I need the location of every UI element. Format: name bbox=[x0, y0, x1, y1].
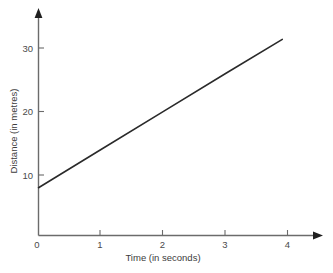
chart-background bbox=[0, 0, 333, 273]
y-tick-label-20: 20 bbox=[22, 106, 33, 117]
x-tick-label-4: 4 bbox=[285, 239, 290, 250]
x-tick-label-0: 0 bbox=[34, 239, 39, 250]
x-tick-label-1: 1 bbox=[97, 239, 102, 250]
x-tick-label-2: 2 bbox=[160, 239, 165, 250]
figure-container: 30 20 10 Distance (in metres) 0 1 2 3 4 … bbox=[0, 0, 333, 273]
line-chart: 30 20 10 Distance (in metres) 0 1 2 3 4 … bbox=[0, 0, 333, 273]
x-axis-title: Time (in seconds) bbox=[125, 252, 200, 263]
y-tick-label-30: 30 bbox=[22, 43, 33, 54]
y-tick-label-10: 10 bbox=[22, 170, 33, 181]
y-axis-title: Distance (in metres) bbox=[8, 89, 19, 174]
x-tick-label-3: 3 bbox=[222, 239, 227, 250]
